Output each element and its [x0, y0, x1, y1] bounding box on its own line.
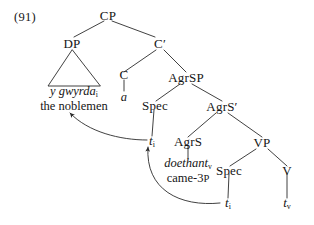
- dp-lexical-content: y gwyrdai the noblemen: [40, 84, 108, 114]
- trace-spec-agrsp-index: i: [153, 141, 155, 150]
- agrs-gloss-smallcap: p: [203, 173, 209, 184]
- branch-agrsbar-vp: [228, 113, 262, 137]
- node-spec-vp: Spec: [216, 164, 242, 177]
- node-dp: DP: [63, 37, 80, 50]
- trace-spec-agrsp: ti: [149, 134, 155, 147]
- dp-gloss-text: the noblemen: [40, 99, 108, 114]
- node-c: C: [120, 68, 129, 81]
- trace-spec-vp: ti: [225, 196, 231, 209]
- movement-arrow-dp: [70, 113, 147, 140]
- branch-specagrsp-trace: [152, 110, 154, 136]
- agrs-lexical-content: doethantv came-3p: [164, 156, 212, 186]
- agrs-welsh-text: doethantv: [164, 156, 212, 171]
- trace-v: tv: [283, 196, 291, 209]
- example-number: (91): [14, 10, 36, 25]
- node-v: V: [282, 164, 292, 177]
- agrs-gloss-text: came-3p: [164, 171, 212, 186]
- node-agrsp: AgrSP: [168, 71, 204, 84]
- branch-specvp-trace: [228, 174, 229, 198]
- trace-spec-vp-index: i: [229, 203, 231, 212]
- dp-triangle: [48, 50, 100, 86]
- branch-cbar-c: [124, 50, 156, 72]
- branch-cp-cbar: [112, 21, 155, 37]
- node-agrs: AgrS: [174, 135, 202, 148]
- syntax-tree-figure: (91) CP DP C′ C AgrSP Spec AgrS′ AgrS VP…: [0, 0, 314, 225]
- node-agrs-bar: AgrS′: [206, 100, 237, 113]
- dp-welsh-index: i: [96, 90, 98, 99]
- c-head-lexical: a: [121, 91, 127, 104]
- agrs-welsh-index: v: [208, 162, 212, 171]
- node-c-bar: C′: [154, 37, 166, 50]
- node-cp: CP: [100, 9, 116, 22]
- trace-v-index: v: [287, 203, 291, 212]
- node-vp: VP: [253, 136, 270, 149]
- node-spec-agrsp: Spec: [142, 99, 168, 112]
- dp-welsh-text: y gwyrdai: [40, 84, 108, 99]
